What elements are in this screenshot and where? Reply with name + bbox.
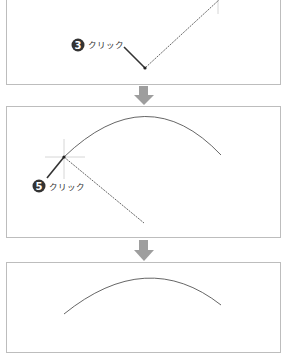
panel-result bbox=[6, 262, 281, 353]
step-5-label: クリック bbox=[49, 182, 85, 192]
arrow-down-icon bbox=[133, 240, 155, 262]
step-3-number: 3 bbox=[75, 40, 82, 51]
step-5-drawing: 5 クリック bbox=[7, 107, 282, 239]
panel-step-3: 3 クリック bbox=[6, 0, 281, 85]
arrow-down-icon bbox=[133, 86, 155, 106]
step-5-number: 5 bbox=[36, 181, 43, 192]
result-arc-drawing bbox=[7, 263, 282, 353]
step-3-label: クリック bbox=[88, 40, 124, 50]
panel-step-5: 5 クリック bbox=[6, 106, 281, 238]
step-3-drawing: 3 クリック bbox=[7, 0, 282, 86]
